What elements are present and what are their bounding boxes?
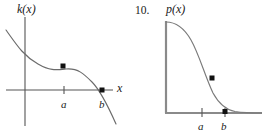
tick-label-a-p: a — [198, 121, 204, 132]
x-axis-label-k: x — [117, 82, 122, 94]
figure-root: k(x) x a b 10. p(x) a b — [0, 0, 262, 135]
graph-panel-p: 10. p(x) a b — [131, 0, 262, 135]
tick-label-b-k: b — [99, 99, 105, 110]
curve-p — [166, 22, 262, 113]
marked-point-inflection-k — [61, 64, 66, 69]
problem-number: 10. — [135, 5, 149, 17]
graph-panel-k: k(x) x a b — [0, 0, 131, 135]
function-label-k: k(x) — [17, 3, 36, 15]
graph-svg-p — [131, 0, 262, 135]
function-label-p: p(x) — [166, 3, 185, 15]
marked-point-tail-p — [223, 109, 228, 114]
marked-point-inflection-p — [210, 76, 215, 81]
graph-svg-k — [0, 0, 131, 135]
tick-label-a-k: a — [61, 99, 67, 110]
tick-label-b-p: b — [221, 121, 227, 132]
marked-point-root-k — [100, 88, 105, 93]
